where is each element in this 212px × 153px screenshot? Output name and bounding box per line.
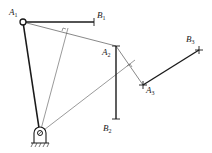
bisector-a2-a3 xyxy=(40,60,135,133)
linkage-diagram: A1 B1 A2 B2 A3 B3 xyxy=(0,0,212,153)
label-b3: B3 xyxy=(186,34,195,45)
label-b1: B1 xyxy=(97,10,106,21)
joint-a1-icon xyxy=(20,19,26,25)
chord-a2-a3 xyxy=(116,46,143,85)
crank-link xyxy=(23,22,39,128)
label-a1: A1 xyxy=(8,7,18,18)
tick-b3 xyxy=(195,46,203,54)
right-angle-mark-1 xyxy=(62,28,66,31)
ground-pivot-icon xyxy=(31,127,49,147)
bisector-a1-a2 xyxy=(40,28,68,133)
label-a3: A3 xyxy=(145,85,155,96)
chord-a1-a2 xyxy=(23,22,116,46)
link-a3-b3 xyxy=(143,50,199,85)
label-b2: B2 xyxy=(103,123,112,134)
label-a2: A2 xyxy=(101,47,111,58)
